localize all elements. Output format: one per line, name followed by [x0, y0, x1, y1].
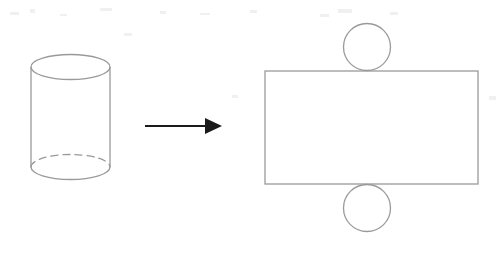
scan-speck — [390, 12, 398, 15]
scan-speck — [250, 10, 257, 13]
scan-speck — [10, 12, 19, 15]
arrow-head-icon — [205, 118, 222, 134]
cylinder-figure — [31, 55, 110, 180]
lateral-surface-rectangle-icon — [265, 71, 478, 184]
scan-artifact-layer — [10, 8, 496, 100]
scan-speck — [320, 14, 329, 17]
bottom-base-circle-icon — [344, 185, 391, 232]
figure-canvas — [0, 0, 504, 254]
top-base-circle-icon — [344, 24, 391, 71]
cylinder-bottom-front-arc-icon — [31, 167, 110, 180]
scan-speck — [60, 14, 67, 16]
cylinder-net-diagram — [0, 0, 504, 254]
scan-speck — [338, 9, 352, 13]
cylinder-net-figure — [265, 24, 478, 232]
scan-speck — [160, 11, 166, 14]
cylinder-hidden-bottom-arc-icon — [31, 155, 110, 168]
scan-speck — [100, 8, 112, 11]
scan-speck — [200, 13, 210, 15]
scan-speck — [30, 9, 35, 13]
scan-speck — [232, 95, 238, 98]
scan-speck — [124, 33, 132, 36]
scan-speck — [489, 96, 496, 100]
transformation-arrow-icon — [145, 118, 222, 134]
cylinder-top-ellipse-icon — [31, 55, 110, 80]
